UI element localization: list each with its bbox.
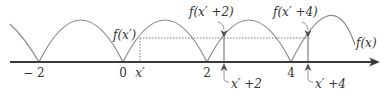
tick-label-0: 0 <box>119 66 127 80</box>
tick-label-4: 4 <box>287 66 295 80</box>
arrow-down-icon <box>221 30 228 38</box>
label-f-x-prime-plus-4: f(x′ +4) <box>272 5 318 19</box>
callout-line-f-x-prime-plus-2 <box>218 22 224 30</box>
callout-line-x-prime-plus-4 <box>308 70 313 82</box>
callout-line-f-x-prime-plus-4 <box>302 22 308 30</box>
label-x-prime-plus-2: x′ +2 <box>231 77 262 91</box>
arrow-up-icon <box>305 63 312 71</box>
curve-label: f(x) <box>355 36 377 50</box>
callout-line-x-prime-plus-2 <box>224 70 229 82</box>
label-f-x-prime-plus-2: f(x′ +2) <box>188 5 234 19</box>
label-f-x-prime: f(x′) <box>112 28 137 42</box>
label-x-prime-plus-4: x′ +4 <box>315 77 346 91</box>
periodic-function-diagram: − 2 0 2 4 x′ f(x′) f(x′ +2) f(x′ +4) x′ … <box>0 0 390 98</box>
tick-label-2: 2 <box>203 66 211 80</box>
label-x-prime: x′ <box>135 66 145 80</box>
tick-label-minus-2: − 2 <box>23 66 45 80</box>
arrow-up-icon <box>221 63 228 71</box>
